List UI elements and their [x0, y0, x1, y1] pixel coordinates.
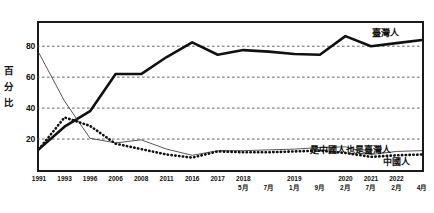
x-tick-month-10: 1月: [287, 184, 301, 193]
x-tick-label-9: 7月: [263, 175, 274, 192]
x-tick-label-11: 9月: [315, 175, 326, 192]
series-label-taiwanese: 臺灣人: [372, 28, 399, 39]
x-tick-label-3: 2006: [108, 175, 122, 184]
x-tick-year-14: 2022: [389, 175, 403, 184]
series-line-0: [39, 36, 422, 149]
x-tick-month-11: 9月: [315, 184, 326, 193]
x-tick-label-15: 4月: [417, 175, 428, 192]
x-tick-year-7: 2017: [210, 175, 224, 184]
x-tick-label-10: 20191月: [287, 175, 301, 192]
x-tick-year-13: 2021: [364, 175, 378, 184]
x-tick-label-5: 2011: [160, 175, 174, 184]
x-tick-label-6: 2016: [185, 175, 199, 184]
x-tick-label-8: 20185月: [236, 175, 250, 192]
x-tick-month-15: 4月: [417, 184, 428, 193]
chart-root: 百 分 比 20406080 1991199319962006200820112…: [0, 0, 434, 213]
x-tick-year-6: 2016: [185, 175, 199, 184]
x-tick-year-3: 2006: [108, 175, 122, 184]
x-tick-month-9: 7月: [263, 184, 274, 193]
x-tick-label-7: 2017: [210, 175, 224, 184]
x-tick-year-12: 2020: [338, 175, 352, 184]
x-tick-month-13: 7月: [364, 184, 378, 193]
x-tick-month-12: 2月: [338, 184, 352, 193]
x-tick-label-13: 20217月: [364, 175, 378, 192]
series-label-chinese: 中國人: [383, 157, 410, 168]
x-tick-year-5: 2011: [160, 175, 174, 184]
x-tick-year-4: 2008: [134, 175, 148, 184]
gridlines: [37, 46, 422, 139]
x-tick-label-14: 20222月: [389, 175, 403, 192]
x-tick-year-1: 1993: [57, 175, 71, 184]
x-tick-month-8: 5月: [236, 184, 250, 193]
x-tick-year-0: 1991: [32, 175, 46, 184]
x-tick-year-11: [315, 175, 326, 184]
x-axis-labels: 1991199319962006200820112016201720185月 7…: [0, 172, 434, 213]
x-tick-label-4: 2008: [134, 175, 148, 184]
series-label-both: 是中國人也是臺灣人: [310, 145, 391, 156]
x-tick-label-2: 1996: [83, 175, 97, 184]
x-tick-label-0: 1991: [32, 175, 46, 184]
x-tick-month-14: 2月: [389, 184, 403, 193]
x-tick-year-9: [263, 175, 274, 184]
x-tick-label-12: 20202月: [338, 175, 352, 192]
x-tick-year-2: 1996: [83, 175, 97, 184]
x-tick-year-10: 2019: [287, 175, 301, 184]
x-tick-year-8: 2018: [236, 175, 250, 184]
x-tick-label-1: 1993: [57, 175, 71, 184]
x-tick-year-15: [417, 175, 428, 184]
series-line-1: [39, 53, 422, 155]
